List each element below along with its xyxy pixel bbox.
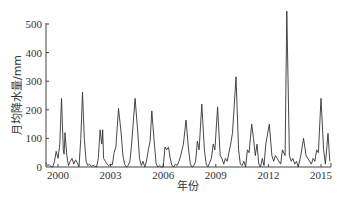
x-axis-title: 年份: [177, 179, 199, 193]
x-axis: 200020032006200920122015: [46, 163, 333, 181]
precipitation-chart: 0100200300400500 20002003200620092012201…: [0, 0, 347, 205]
x-tick-label: 2006: [152, 169, 175, 181]
y-tick-label: 100: [26, 132, 43, 144]
y-tick-label: 200: [26, 104, 43, 116]
y-tick-label: 500: [26, 18, 43, 30]
y-tick-label: 0: [37, 161, 43, 173]
y-axis-title: 月均降水量/mm: [10, 55, 24, 135]
y-tick-label: 400: [26, 47, 43, 59]
y-axis: 0100200300400500: [26, 18, 50, 173]
x-tick-label: 2015: [310, 169, 333, 181]
x-tick-label: 2009: [205, 169, 228, 181]
precipitation-line: [46, 11, 330, 167]
x-tick-label: 2003: [100, 169, 123, 181]
x-tick-label: 2000: [47, 169, 70, 181]
y-tick-label: 300: [26, 75, 43, 87]
x-tick-label: 2012: [257, 169, 279, 181]
